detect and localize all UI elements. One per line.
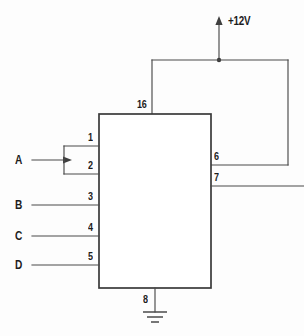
signal-label-d: D: [15, 258, 22, 271]
supply-voltage-label: +12V: [228, 15, 250, 27]
pin-number-7: 7: [214, 172, 219, 183]
up-arrow-icon: [215, 16, 222, 25]
signal-label-a: A: [15, 153, 22, 166]
pin-number-3: 3: [88, 191, 93, 202]
pin-number-16: 16: [137, 99, 147, 110]
schematic-drawing: [0, 0, 304, 336]
ic-block-outline: [99, 114, 211, 288]
pin-number-2: 2: [88, 160, 93, 171]
pin-number-8: 8: [143, 294, 148, 305]
pin-number-5: 5: [88, 251, 93, 262]
signal-label-c: C: [15, 229, 22, 242]
schematic-canvas: +12V 16 1 2 3 4 5 6 7 8 A B C D: [0, 0, 304, 336]
pin-number-6: 6: [214, 151, 219, 162]
pin-number-4: 4: [88, 222, 93, 233]
pin-number-1: 1: [88, 132, 93, 143]
signal-label-b: B: [15, 198, 22, 211]
